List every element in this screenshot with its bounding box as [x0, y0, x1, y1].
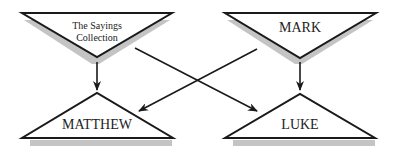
- sayings-line1: The Sayings: [47, 20, 147, 32]
- sayings-line2: Collection: [47, 32, 147, 44]
- source-diagram: The Sayings Collection MARK MATTHEW LUKE: [0, 0, 399, 155]
- matthew-label: MATTHEW: [47, 117, 147, 133]
- luke-label: LUKE: [250, 117, 350, 133]
- sayings-collection-label: The Sayings Collection: [47, 20, 147, 43]
- mark-label: MARK: [250, 20, 350, 36]
- arrow-sayings-to-luke: [135, 48, 257, 111]
